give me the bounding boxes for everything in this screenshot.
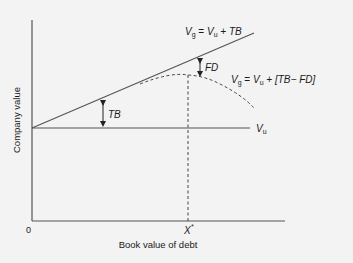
optimum-debt-label: X* [183,223,194,236]
levered-value-label: Vg = Vu + TB [185,26,242,39]
y-axis-label: Company value [11,87,22,153]
tb-gap-label: TB [108,109,121,120]
capital-structure-diagram: TB FD Vg = Vu + TB Vg = Vu + [TB− FD] Vu… [0,0,353,263]
unlevered-value-label: Vu [256,123,267,135]
x-axis-label: Book value of debt [119,239,198,250]
fd-gap-label: FD [205,62,218,73]
levered-value-line [32,33,254,128]
levered-distress-value-label: Vg = Vu + [TB− FD] [231,74,315,87]
origin-label: 0 [26,225,31,235]
